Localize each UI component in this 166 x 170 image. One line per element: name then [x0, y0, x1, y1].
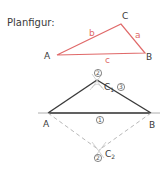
step-3-marker: 3	[117, 83, 124, 91]
arc-c1-a	[90, 84, 104, 90]
construction-vertex-b: B	[149, 120, 155, 130]
plan-side-a: a	[135, 30, 141, 40]
plan-vertex-b: B	[146, 52, 152, 62]
plan-vertex-a: A	[44, 51, 51, 61]
dashed-side-a	[99, 113, 151, 150]
step-1-marker: 1	[96, 116, 103, 124]
svg-text:2: 2	[96, 69, 100, 76]
dashed-side-b	[48, 113, 99, 150]
plan-figure-title: Planfigur:	[7, 17, 55, 28]
plan-side-c: c	[105, 55, 110, 65]
svg-text:2: 2	[96, 154, 100, 161]
svg-text:3: 3	[119, 83, 123, 90]
plan-vertex-c: C	[122, 11, 128, 21]
plan-side-b: b	[89, 28, 95, 38]
diagram-canvas: Planfigur: A B C b a c A B C1 C2	[0, 0, 166, 170]
svg-text:1: 1	[98, 116, 102, 123]
side-b	[48, 80, 97, 113]
c2-label: C2	[105, 149, 115, 160]
plan-figure-triangle	[57, 24, 145, 55]
step-2-marker-bottom: 2	[94, 154, 101, 162]
construction-vertex-a: A	[43, 119, 50, 129]
c1-label: C1	[104, 82, 114, 93]
step-2-marker-top: 2	[94, 69, 101, 77]
